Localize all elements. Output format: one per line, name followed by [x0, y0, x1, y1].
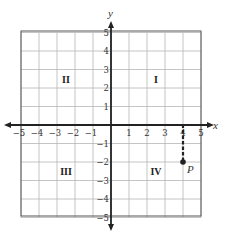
- x-axis-left-arrow-icon: [4, 122, 11, 128]
- x-tick-label: −3: [49, 128, 62, 138]
- y-tick-label: −5: [96, 213, 109, 223]
- y-tick-label: 4: [104, 46, 109, 56]
- x-tick-label: −5: [13, 128, 26, 138]
- x-tick-label: −4: [31, 128, 44, 138]
- coordinate-plane: −5−4−3−2−11234554321−1−2−3−4−5 IIIIIIIV …: [0, 0, 230, 238]
- x-tick-label: 5: [198, 128, 203, 138]
- y-tick-label: −2: [96, 157, 109, 167]
- y-tick-label: −3: [96, 176, 109, 186]
- y-axis-down-arrow-icon: [108, 224, 114, 231]
- y-tick-label: 5: [104, 28, 109, 38]
- point-marker: [180, 159, 186, 165]
- x-axis-label: x: [212, 119, 218, 131]
- x-tick-label: −2: [67, 128, 80, 138]
- y-axis-label: y: [107, 7, 113, 19]
- x-tick-label: −1: [85, 128, 98, 138]
- point-label: P: [186, 163, 194, 175]
- y-tick-label: 2: [104, 83, 109, 93]
- quadrant-label: II: [62, 74, 70, 85]
- quadrant-label: IV: [150, 166, 162, 177]
- quadrant-label: I: [154, 74, 158, 85]
- y-tick-label: −4: [96, 194, 109, 204]
- quadrant-label: III: [60, 166, 72, 177]
- y-tick-label: 1: [104, 102, 109, 112]
- x-tick-label: 3: [162, 128, 167, 138]
- x-tick-label: 1: [126, 128, 131, 138]
- y-tick-label: −1: [96, 139, 109, 149]
- x-tick-label: 2: [144, 128, 149, 138]
- point-p: P: [180, 159, 194, 175]
- y-tick-label: 3: [104, 65, 109, 75]
